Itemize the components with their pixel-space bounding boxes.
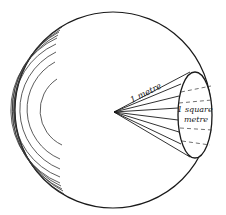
sphere-shading-arcs bbox=[11, 27, 64, 194]
area-label-line1: 1 square bbox=[177, 105, 213, 114]
solid-angle-figure: 1 metre 1 square metre bbox=[0, 0, 226, 215]
area-label-line2: metre bbox=[184, 115, 208, 124]
